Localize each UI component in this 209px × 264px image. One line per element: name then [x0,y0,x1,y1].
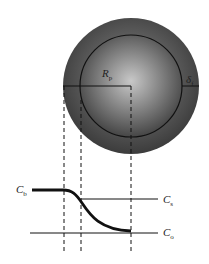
co-label: Co [163,227,174,241]
rp-label: Rp [102,68,112,82]
delta-f-label: δf [186,74,193,88]
cb-label: Cb [16,184,27,198]
particle-diagram [0,0,209,264]
cs-label: Cs [163,194,173,208]
concentration-profile-curve [32,190,131,231]
